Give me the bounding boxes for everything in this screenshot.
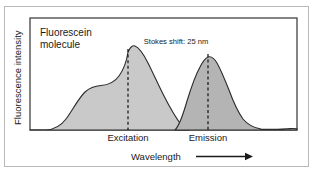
fluorescein-spectra-figure: Fluorescence intensity Fluorescein molec… — [0, 0, 317, 180]
tick-label-emission: Emission — [189, 132, 228, 143]
tick-label-excitation: Excitation — [107, 132, 148, 143]
stokes-shift-annotation: Stokes shift: 25 nm — [144, 37, 209, 46]
y-axis-label: Fluorescence intensity — [12, 30, 23, 125]
plot-title-line1: Fluorescein — [40, 27, 92, 38]
spectra-chart: Fluorescence intensity Fluorescein molec… — [0, 0, 317, 180]
plot-title-line2: molecule — [40, 39, 80, 50]
x-axis-label: Wavelength — [131, 151, 181, 162]
wavelength-arrow-icon — [196, 153, 253, 161]
